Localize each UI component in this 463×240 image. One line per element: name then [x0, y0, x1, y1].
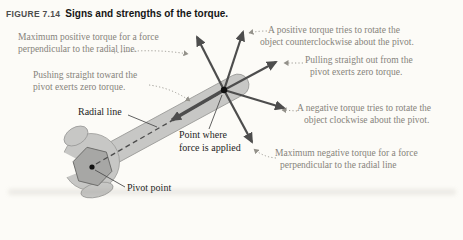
- annotation-negative-torque: A negative torque tries to rotate the ob…: [297, 103, 431, 126]
- force-arrows: [172, 32, 284, 142]
- annotation-max-negative-torque: Maximum negative torque for a force perp…: [275, 148, 418, 171]
- force-arrow-max-positive-torque: [197, 37, 224, 90]
- leader-negative: [282, 110, 297, 111]
- pivot-point-dot: [89, 164, 94, 169]
- annotation-pushing-zero-torque: Pushing straight toward the pivot exerts…: [33, 70, 137, 93]
- leader-max-negative: [254, 149, 276, 158]
- page-bleed-through-artifact: [8, 189, 456, 195]
- label-force-point: Point where force is applied: [179, 128, 241, 154]
- annotation-positive-torque: A positive torque tries to rotate the ob…: [260, 25, 414, 48]
- force-point-dot: [221, 87, 227, 93]
- annotation-max-positive-torque: Maximum positive torque for a force perp…: [18, 32, 159, 55]
- label-radial-line: Radial line: [78, 105, 122, 118]
- annotation-pulling-zero-torque: Pulling straight out from the pivot exer…: [305, 55, 413, 78]
- leader-pushing: [149, 85, 190, 101]
